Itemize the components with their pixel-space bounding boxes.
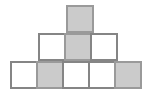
square-middle-2 <box>64 33 92 61</box>
square-bottom-5 <box>114 61 142 89</box>
figure-canvas <box>0 0 157 93</box>
square-middle-1 <box>38 33 66 61</box>
square-middle-3 <box>90 33 118 61</box>
square-bottom-4 <box>88 61 116 89</box>
square-bottom-3 <box>62 61 90 89</box>
square-bottom-2 <box>36 61 64 89</box>
square-bottom-1 <box>10 61 38 89</box>
square-top-1 <box>66 5 94 33</box>
